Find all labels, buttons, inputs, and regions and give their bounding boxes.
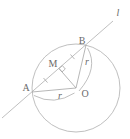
label-radius-oa: r bbox=[58, 90, 62, 101]
label-point-o: O bbox=[81, 88, 88, 99]
label-point-m: M bbox=[49, 58, 58, 69]
label-point-a: A bbox=[22, 82, 30, 93]
circle-chord-diagram: A B M O l r r bbox=[0, 0, 130, 139]
right-angle-marker bbox=[59, 66, 65, 72]
label-line-l: l bbox=[117, 7, 120, 18]
radius-arc-ao bbox=[34, 93, 75, 100]
geometry-figure: A B M O l r r bbox=[0, 0, 130, 139]
label-radius-ob: r bbox=[85, 56, 89, 67]
label-point-b: B bbox=[79, 35, 86, 46]
segment-oa bbox=[32, 88, 76, 92]
radius-arc-bo bbox=[79, 48, 92, 91]
line-l bbox=[2, 21, 113, 118]
